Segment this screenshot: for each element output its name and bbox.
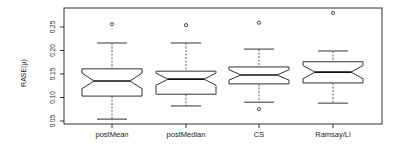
x-tick-label: CS (254, 130, 264, 139)
boxes (82, 11, 363, 119)
box-cs (229, 21, 289, 111)
box-postmean (82, 23, 142, 120)
y-tick-label: 0.15 (49, 67, 56, 80)
notched-box (156, 71, 216, 94)
y-axis-label: RASE(μ) (20, 59, 28, 87)
notched-box (82, 69, 142, 96)
y-axis: 0.050.100.150.200.25 (49, 20, 64, 127)
x-tick-label: Ramsay/Li (315, 130, 351, 139)
boxplot-chart: 0.050.100.150.200.25 postMeanpostMedianC… (0, 0, 401, 147)
outlier-point (184, 24, 187, 27)
y-tick-label: 0.05 (49, 114, 56, 127)
box-postmedian (156, 24, 216, 106)
outlier-point (257, 21, 260, 24)
outlier-point (110, 23, 113, 26)
x-tick-label: postMedian (167, 130, 206, 139)
x-axis: postMeanpostMedianCSRamsay/Li (96, 124, 352, 139)
outlier-point (257, 108, 260, 111)
outlier-point (331, 11, 334, 14)
y-tick-label: 0.10 (49, 91, 56, 104)
y-tick-label: 0.25 (49, 20, 56, 33)
y-tick-label: 0.20 (49, 44, 56, 57)
box-ramsay-li (303, 11, 363, 103)
x-tick-label: postMean (96, 130, 129, 139)
